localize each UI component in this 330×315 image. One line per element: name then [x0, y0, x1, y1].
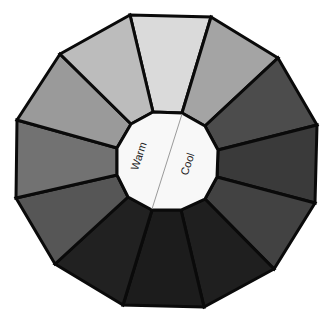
- color-wheel: [0, 0, 330, 315]
